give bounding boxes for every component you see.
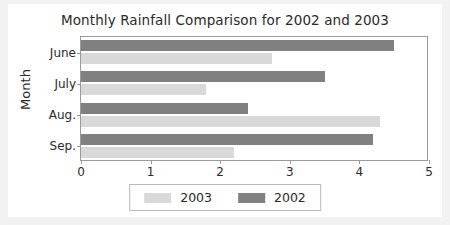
bar-group: Aug.	[81, 100, 427, 131]
plot-area: JuneJulyAug.Sep.012345	[80, 36, 428, 161]
bar-sep-2002	[81, 134, 373, 145]
chart-title: Monthly Rainfall Comparison for 2002 and…	[8, 12, 442, 28]
x-tick-mark	[429, 160, 430, 164]
x-tick-label: 1	[136, 165, 166, 179]
x-tick-label: 5	[414, 165, 444, 179]
y-tick-mark	[77, 84, 81, 85]
x-tick-mark	[359, 160, 360, 164]
y-tick-label: Sep.	[16, 139, 76, 153]
y-tick-label: June	[16, 46, 76, 60]
x-tick-mark	[151, 160, 152, 164]
bar-june-2003	[81, 53, 272, 64]
legend-entry-2002: 2002	[238, 190, 306, 205]
x-tick-mark	[290, 160, 291, 164]
x-tick-label: 3	[275, 165, 305, 179]
y-tick-label: July	[16, 77, 76, 91]
legend-label-2003: 2003	[180, 190, 212, 205]
y-tick-label: Aug.	[16, 108, 76, 122]
x-tick-label: 2	[205, 165, 235, 179]
chart-legend: 20032002	[129, 184, 321, 211]
bar-july-2003	[81, 84, 206, 95]
x-tick-mark	[220, 160, 221, 164]
chart-figure: Monthly Rainfall Comparison for 2002 and…	[8, 4, 442, 217]
bar-group: Sep.	[81, 131, 427, 162]
bar-sep-2003	[81, 147, 234, 158]
y-tick-mark	[77, 146, 81, 147]
bar-aug-2003	[81, 116, 380, 127]
bar-aug-2002	[81, 103, 248, 114]
y-tick-mark	[77, 115, 81, 116]
legend-label-2002: 2002	[274, 190, 306, 205]
bar-june-2002	[81, 40, 394, 51]
bar-group: July	[81, 68, 427, 99]
bar-july-2002	[81, 71, 325, 82]
legend-swatch-2002	[238, 193, 265, 203]
legend-entry-2003: 2003	[144, 190, 212, 205]
bar-group: June	[81, 37, 427, 68]
x-tick-label: 4	[344, 165, 374, 179]
x-tick-label: 0	[66, 165, 96, 179]
x-tick-mark	[81, 160, 82, 164]
legend-swatch-2003	[144, 193, 171, 203]
y-tick-mark	[77, 53, 81, 54]
